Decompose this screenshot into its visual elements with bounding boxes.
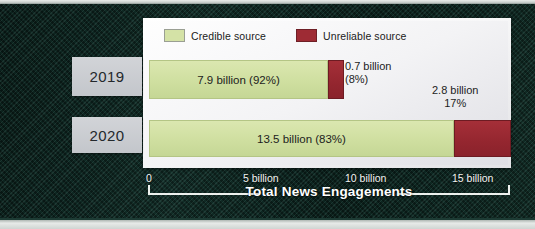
xtick-label-10b: 10 billion	[345, 172, 386, 184]
callout-2019-unreliable: 0.7 billion (8%)	[345, 60, 391, 86]
legend-item-unreliable: Unreliable source	[296, 29, 406, 42]
unreliable-swatch-icon	[296, 29, 317, 42]
year-label-2019: 2019	[72, 57, 142, 96]
callout-2020-unreliable: 2.8 billion 17%	[432, 84, 478, 110]
callout-2020-line1: 2.8 billion	[432, 84, 478, 97]
axis-bracket: Total News Engagements	[148, 193, 510, 194]
bar-segment-2019-unreliable	[328, 60, 344, 99]
year-text-2019: 2019	[90, 68, 125, 85]
legend-label-credible: Credible source	[191, 30, 266, 42]
legend-label-unreliable: Unreliable source	[323, 30, 406, 42]
bar-label-2020-credible: 13.5 billion (83%)	[257, 133, 346, 145]
bar-segment-2019-credible: 7.9 billion (92%)	[149, 60, 328, 99]
xtick-label-5b: 5 billion	[243, 172, 279, 184]
axis-title-text: Total News Engagements	[239, 184, 420, 199]
bottom-border-strip	[0, 220, 535, 229]
chart-legend: Credible source Unreliable source	[164, 29, 406, 42]
bar-segment-2020-credible: 13.5 billion (83%)	[149, 120, 454, 157]
top-border-strip	[0, 0, 535, 4]
chart-screenshot: Credible source Unreliable source 7.9 bi…	[0, 0, 535, 229]
credible-swatch-icon	[164, 29, 185, 42]
axis-title: Total News Engagements	[148, 184, 510, 199]
callout-2019-line2: (8%)	[345, 73, 391, 86]
callout-2019-line1: 0.7 billion	[345, 60, 391, 73]
xtick-label-0: 0	[146, 172, 152, 184]
bar-segment-2020-unreliable	[454, 120, 511, 157]
year-label-2020: 2020	[72, 117, 142, 153]
callout-2020-line2: 17%	[432, 97, 478, 110]
xtick-label-15b: 15 billion	[452, 172, 493, 184]
year-text-2020: 2020	[90, 127, 125, 144]
legend-item-credible: Credible source	[164, 29, 266, 42]
bar-label-2019-credible: 7.9 billion (92%)	[197, 74, 279, 86]
bar-row-2020: 13.5 billion (83%)	[149, 120, 509, 157]
